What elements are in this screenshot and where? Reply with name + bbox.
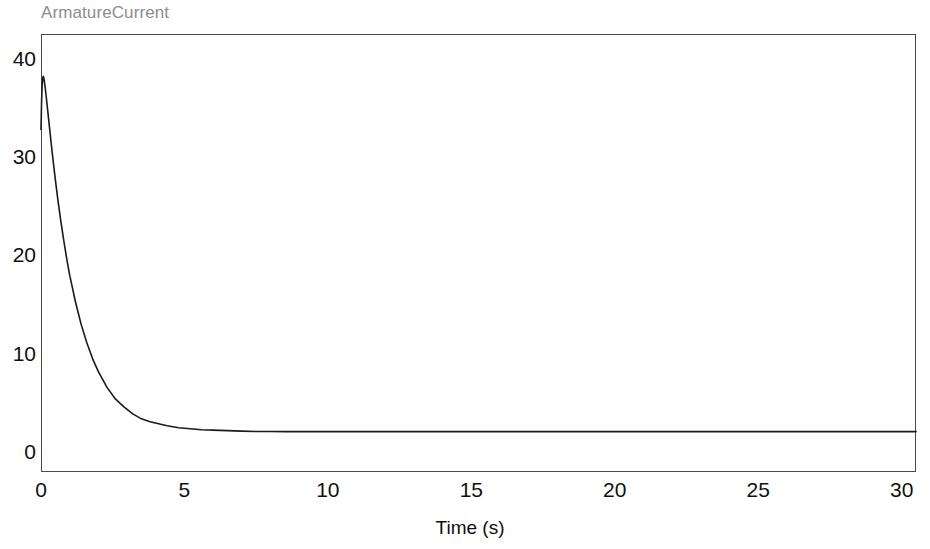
x-axis-tick-labels: 051015202530 [0,0,930,549]
x-tick-label: 30 [872,479,930,500]
x-tick-label: 25 [728,479,788,500]
x-axis-label: Time (s) [0,517,930,539]
x-tick-label: 5 [154,479,214,500]
chart-figure: ArmatureCurrent 010203040 051015202530 T… [0,0,930,549]
x-axis-label-text: Time (s) [436,517,505,538]
x-tick-label: 15 [441,479,501,500]
x-tick-label: 10 [298,479,358,500]
x-tick-label: 20 [585,479,645,500]
x-tick-label: 0 [11,479,71,500]
